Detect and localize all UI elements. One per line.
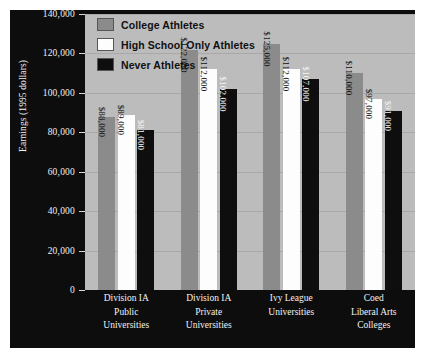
bar-value-label: $102,000	[218, 76, 228, 111]
legend-item: Never Athletes	[97, 56, 255, 73]
y-axis-tick-mark	[79, 132, 85, 133]
y-axis-tick-label: 40,000	[48, 206, 75, 216]
bar: $112,000	[200, 69, 217, 290]
legend-swatch-icon	[97, 58, 114, 71]
x-axis-label-line: Public	[85, 306, 168, 320]
y-axis-tick-label: 100,000	[43, 88, 75, 98]
x-axis-label-line: Universities	[85, 319, 168, 333]
x-axis-label-line: Ivy League	[250, 292, 333, 306]
bar: $81,000	[137, 130, 154, 290]
bar: $102,000	[220, 89, 237, 290]
bar: $112,000	[283, 69, 300, 290]
bar-value-label: $97,000	[364, 88, 374, 119]
bar: $125,000	[263, 44, 280, 290]
legend-swatch-icon	[97, 18, 114, 31]
y-axis-tick-label: 80,000	[48, 127, 75, 137]
y-axis-tick-mark	[79, 211, 85, 212]
legend-item: College Athletes	[97, 16, 255, 33]
bar-value-label: $125,000	[262, 31, 272, 66]
x-axis-label-line: Universities	[250, 306, 333, 320]
bar-group: $110,000$97,000$91,000	[333, 14, 416, 290]
y-axis-tick-label: 20,000	[48, 246, 75, 256]
x-axis-label-line: Coed	[333, 292, 416, 306]
x-axis-label-line: Division IA	[168, 292, 251, 306]
y-axis-tick-mark	[79, 172, 85, 173]
bar-value-label: $89,000	[116, 104, 126, 135]
x-axis-label-line: Colleges	[333, 319, 416, 333]
y-axis-title: Earnings (1995 dollars)	[18, 60, 28, 152]
bar-value-label: $107,000	[301, 66, 311, 101]
y-axis-tick-mark	[79, 14, 85, 15]
x-axis-category-label: Division IAPrivateUniversities	[168, 292, 251, 333]
bar-value-label: $110,000	[344, 61, 354, 96]
bar-group: $125,000$112,000$107,000	[250, 14, 333, 290]
bar: $122,000	[181, 50, 198, 291]
x-axis-labels: Division IAPublicUniversitiesDivision IA…	[85, 292, 415, 344]
x-axis-label-line: Liberal Arts	[333, 306, 416, 320]
chart-figure: Earnings (1995 dollars) $88,000$89,000$8…	[0, 0, 429, 361]
bar: $107,000	[302, 79, 319, 290]
legend-swatch-icon	[97, 38, 114, 51]
bar: $91,000	[385, 111, 402, 290]
bar-value-label: $88,000	[97, 106, 107, 137]
bar: $97,000	[365, 99, 382, 290]
bar: $89,000	[118, 115, 135, 290]
y-axis-tick-mark	[79, 53, 85, 54]
x-axis-label-line: Private	[168, 306, 251, 320]
bar-value-label: $91,000	[383, 100, 393, 131]
y-axis-tick-mark	[79, 93, 85, 94]
bar-value-label: $81,000	[136, 120, 146, 151]
y-axis-tick-label: 0	[70, 285, 75, 295]
y-axis-tick-label: 60,000	[48, 167, 75, 177]
legend-label: College Athletes	[121, 19, 204, 31]
x-axis-category-label: CoedLiberal ArtsColleges	[333, 292, 416, 333]
legend-item: High School Only Athletes	[97, 36, 255, 53]
chart-legend: College AthletesHigh School Only Athlete…	[97, 16, 255, 76]
legend-label: High School Only Athletes	[121, 39, 255, 51]
x-axis-category-label: Division IAPublicUniversities	[85, 292, 168, 333]
legend-label: Never Athletes	[121, 59, 196, 71]
bar: $88,000	[98, 117, 115, 290]
bar-value-label: $112,000	[281, 57, 291, 92]
y-axis-tick-label: 140,000	[43, 9, 75, 19]
x-axis-category-label: Ivy LeagueUniversities	[250, 292, 333, 319]
bar: $110,000	[346, 73, 363, 290]
y-axis-tick-label: 120,000	[43, 48, 75, 58]
x-axis-label-line: Universities	[168, 319, 251, 333]
y-axis-tick-mark	[79, 251, 85, 252]
x-axis-label-line: Division IA	[85, 292, 168, 306]
y-axis-tick-mark	[79, 290, 85, 291]
